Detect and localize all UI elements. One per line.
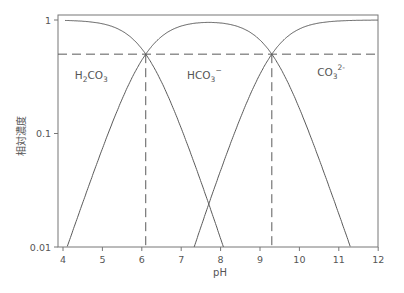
x-axis-title: pH: [213, 267, 227, 278]
x-tick-label: 12: [372, 254, 384, 265]
x-axis-ticks: 456789101112: [60, 247, 384, 265]
x-tick-label: 7: [178, 254, 184, 265]
y-tick-label: 0.01: [30, 242, 51, 253]
carbonate-speciation-chart: 456789101112 0.010.11 H2CO3HCO3−CO32- pH…: [0, 0, 404, 293]
y-axis-title: 相対濃度: [15, 116, 27, 156]
label-hco3: HCO3−: [187, 66, 222, 84]
label-h2co3: H2CO3: [75, 69, 108, 84]
label-co3: CO32-: [317, 63, 345, 81]
y-axis-ticks: 0.010.11: [30, 15, 58, 253]
x-tick-label: 5: [99, 254, 105, 265]
y-tick-label: 0.1: [36, 128, 51, 139]
species-labels: H2CO3HCO3−CO32-: [75, 63, 345, 84]
x-tick-label: 9: [257, 254, 263, 265]
plot-frame: [58, 15, 378, 247]
x-tick-label: 4: [60, 254, 66, 265]
x-tick-label: 10: [293, 254, 305, 265]
hco3-curve: [67, 22, 350, 246]
plot-border: [58, 15, 378, 247]
x-tick-label: 6: [139, 254, 145, 265]
y-tick-label: 1: [45, 15, 51, 26]
x-tick-label: 8: [218, 254, 224, 265]
x-tick-label: 11: [333, 254, 345, 265]
